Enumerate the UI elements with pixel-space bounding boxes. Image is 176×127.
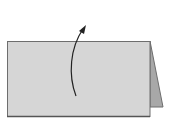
diagram-canvas xyxy=(0,0,176,127)
front-panel xyxy=(8,42,151,117)
back-flap xyxy=(150,41,163,107)
folded-card-diagram: Folded tent card with a curved arrow ind… xyxy=(0,0,176,127)
